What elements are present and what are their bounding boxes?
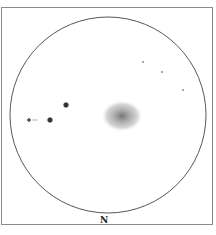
star	[161, 71, 163, 73]
galaxy	[101, 100, 143, 132]
star	[47, 117, 53, 123]
star	[27, 118, 31, 122]
eyepiece-field	[0, 0, 216, 235]
star	[63, 102, 69, 108]
north-label: N	[100, 215, 108, 225]
star	[142, 61, 144, 63]
star	[182, 89, 184, 91]
